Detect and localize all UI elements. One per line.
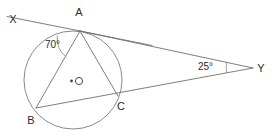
center-point-dot	[70, 80, 73, 83]
label-point-c: C	[117, 100, 125, 112]
main-circle	[24, 31, 122, 129]
label-angle-25: 25°	[198, 61, 213, 72]
label-angle-70: 70°	[45, 39, 60, 50]
geometry-canvas: X A B C Y 70° 25°	[0, 0, 278, 136]
chord-AC	[80, 31, 118, 96]
line-AY	[80, 31, 253, 68]
geometry-diagram: X A B C Y 70° 25°	[0, 0, 278, 136]
label-point-b: B	[27, 114, 34, 126]
label-point-x: X	[9, 13, 17, 25]
secant-BCY	[36, 68, 253, 108]
center-ring-icon	[75, 77, 82, 84]
tangent-segment-XA	[7, 17, 80, 32]
angle-arc-25	[226, 62, 227, 73]
label-point-y: Y	[257, 62, 265, 74]
label-point-a: A	[75, 6, 83, 18]
